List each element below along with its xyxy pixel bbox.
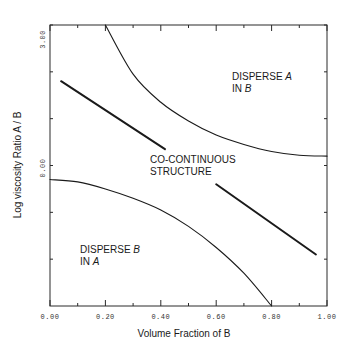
x-tick-label: 0.20	[96, 313, 115, 321]
right-thick-line	[216, 184, 316, 254]
x-tick-label: 0.40	[151, 313, 170, 321]
y-tick-label-top: 3.00	[39, 30, 47, 49]
region-label-co-continuous: CO-CONTINUOUS STRUCTURE	[150, 154, 238, 177]
left-thick-line	[61, 81, 165, 149]
y-axis-title: Log viscosity Ratio A / B	[12, 111, 23, 218]
x-tick-labels: 0.000.200.400.600.801.00	[41, 313, 337, 321]
x-tick-label: 1.00	[318, 313, 337, 321]
x-axis-title: Volume Fraction of B	[138, 328, 231, 339]
x-tick-label: 0.60	[207, 313, 226, 321]
y-tick-label-zero: 0.00	[39, 159, 47, 178]
region-label-disperse-b-in-a: DISPERSE B IN A	[80, 244, 143, 267]
region-label-disperse-a-in-b: DISPERSE A IN B	[232, 71, 295, 94]
x-tick-label: 0.80	[262, 313, 281, 321]
x-tick-label: 0.00	[41, 313, 60, 321]
chart-canvas: 3.00 0.00 0.000.200.400.600.801.00 Log v…	[0, 0, 343, 353]
lower-boundary-curve	[50, 180, 272, 306]
upper-boundary-curve	[105, 25, 327, 156]
